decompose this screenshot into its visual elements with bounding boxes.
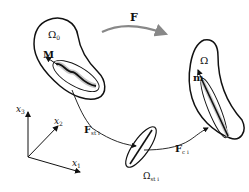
reference-body: Ω0 M <box>34 18 105 99</box>
map-to-stress-free-label: Fst i <box>84 124 100 136</box>
axis-x2-label: x2 <box>54 116 63 127</box>
current-fiber <box>202 80 228 136</box>
map-label: F <box>130 11 138 24</box>
axis-x1-label: x1 <box>72 158 81 169</box>
coordinate-axes: x3 x2 x1 <box>16 104 81 172</box>
continuum-mechanics-diagram: Ω0 M F Ω m Ωst i Fst i Fc i <box>0 0 249 192</box>
stress-free-domain-label: Ωst i <box>143 171 159 182</box>
map-arrow <box>102 26 166 34</box>
stress-free-body: Ωst i <box>121 123 162 182</box>
map-to-current-label: Fc i <box>175 143 189 155</box>
current-body-outline <box>189 40 244 139</box>
reference-domain-label: Ω0 <box>48 29 60 41</box>
axis-x2 <box>28 126 58 157</box>
deformation-map: F <box>102 11 166 34</box>
current-domain-label: Ω <box>200 55 208 66</box>
current-vector-label: m <box>193 72 204 83</box>
axis-x3-label: x3 <box>16 104 25 115</box>
current-body: Ω m <box>189 40 244 140</box>
reference-vector-label: M <box>43 49 54 60</box>
